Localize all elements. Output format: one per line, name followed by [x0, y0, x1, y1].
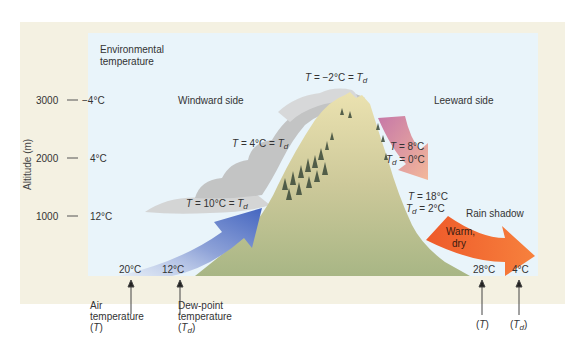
dry-label: dry [452, 238, 466, 249]
dewpoint-end: 4°C [512, 264, 529, 275]
tick-2000-altitude: 2000 [36, 153, 58, 164]
altitude-ticks [67, 100, 78, 216]
tick-2000-temp: 4°C [90, 153, 107, 164]
td2-label: Td = 2°C [406, 203, 445, 217]
air-temp-start: 20°C [119, 264, 141, 275]
air-callout-line1: Air [90, 300, 102, 311]
warm-label: Warm, [446, 226, 475, 237]
air-temp-end: 28°C [473, 264, 495, 275]
dew-callout-line2: temperature [178, 311, 232, 322]
orographic-scene [0, 0, 575, 357]
air-end-callout: (T) [476, 319, 489, 330]
t10-label: T = 10°C = Td [186, 198, 248, 212]
tick-3000-temp: −4°C [82, 95, 105, 106]
air-callout-line3: (T) [90, 322, 103, 333]
t8-label: T = 8°C [390, 141, 424, 152]
tick-3000-altitude: 3000 [36, 95, 58, 106]
rain-shadow-label: Rain shadow [466, 208, 524, 219]
dewpoint-start: 12°C [162, 264, 184, 275]
t4-label: T = 4°C = Td [232, 138, 288, 152]
air-callout-line2: temperature [90, 311, 144, 322]
td0-label: Td = 0°C [386, 154, 425, 168]
dew-callout-line1: Dew-point [178, 300, 223, 311]
leeward-side-label: Leeward side [434, 95, 493, 106]
env-temp-label-line1: Environmental [100, 44, 164, 55]
windward-side-label: Windward side [178, 95, 244, 106]
dew-end-callout: (Td) [510, 319, 527, 333]
t18-label: T = 18°C [408, 191, 448, 202]
peak-temp-label: T = −2°C = Td [305, 72, 367, 86]
tick-1000-temp: 12°C [90, 211, 112, 222]
y-axis-label: Altitude (m) [22, 139, 33, 190]
env-temp-label-line2: temperature [100, 56, 154, 67]
dew-callout-line3: (Td) [178, 322, 195, 336]
tick-1000-altitude: 1000 [36, 211, 58, 222]
